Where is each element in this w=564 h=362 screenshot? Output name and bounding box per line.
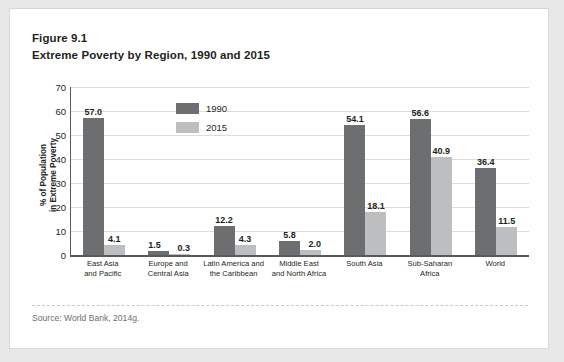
x-axis-label: Middle East and North Africa [266,259,331,279]
bar-slot: 5.8 [279,241,300,255]
y-axis-tick: 70 [44,82,66,93]
bar-value-label: 2.0 [308,239,321,249]
bar-group: 54.118.1 [333,87,398,255]
bar-2015[interactable]: 4.3 [235,245,256,255]
bar-1990[interactable]: 36.4 [475,168,496,255]
bar-1990[interactable]: 12.2 [214,226,235,255]
bar-2015[interactable]: 4.1 [104,245,125,255]
bar-slot: 54.1 [344,125,365,255]
bar-slot: 2.0 [300,250,321,255]
bar-slot: 18.1 [365,212,386,255]
bar-slot: 12.2 [214,226,235,255]
legend-item[interactable]: 2015 [176,122,256,133]
bar-1990[interactable]: 56.6 [410,119,431,255]
bar-1990[interactable]: 5.8 [279,241,300,255]
bar-value-label: 0.3 [178,243,191,253]
bar-2015[interactable]: 40.9 [431,157,452,255]
bar-slot: 11.5 [496,227,517,255]
bars-layer: 57.04.11.50.312.24.35.82.054.118.156.640… [71,87,529,255]
y-axis-tick: 30 [44,178,66,189]
x-axis-label: Sub-Saharan Africa [397,259,462,279]
bar-value-label: 18.1 [367,201,385,211]
chart-legend: 19902015 [176,103,256,141]
bar-value-label: 5.8 [283,230,296,240]
bar-value-label: 11.5 [498,216,515,226]
bar-2015[interactable]: 11.5 [496,227,517,255]
x-axis-category-labels: East Asia and PacificEurope and Central … [70,259,528,279]
bar-1990[interactable]: 1.5 [148,251,169,255]
bar-group: 56.640.9 [398,87,463,255]
figure-number: Figure 9.1 [32,31,512,46]
bar-value-label: 4.1 [108,234,121,244]
figure-header: Figure 9.1 Extreme Poverty by Region, 19… [32,31,512,63]
source-note: Source: World Bank, 2014g. [32,313,139,323]
plot-area: 57.04.11.50.312.24.35.82.054.118.156.640… [70,87,529,257]
x-axis-label: Latin America and the Caribbean [201,259,266,279]
bar-value-label: 4.3 [239,234,252,244]
bar-value-label: 57.0 [84,107,102,117]
bar-slot: 57.0 [83,118,104,255]
legend-swatch [176,122,199,133]
y-axis-tick: 0 [44,250,66,261]
y-axis-tick: 40 [44,154,66,165]
legend-swatch [176,103,199,114]
bar-2015[interactable]: 2.0 [300,250,321,255]
x-axis-label: Europe and Central Asia [135,259,200,279]
bar-group: 5.82.0 [267,87,332,255]
source-divider [32,305,528,306]
y-axis-tick: 50 [44,130,66,141]
x-axis-label: World [463,259,528,279]
bar-value-label: 54.1 [346,114,364,124]
y-axis-tick: 10 [44,226,66,237]
bar-slot: 1.5 [148,251,169,255]
bar-value-label: 36.4 [477,157,495,167]
x-axis-label: South Asia [332,259,397,279]
bar-group: 36.411.5 [464,87,529,255]
bar-slot: 36.4 [475,168,496,255]
bar-1990[interactable]: 54.1 [344,125,365,255]
x-axis-label: East Asia and Pacific [70,259,135,279]
figure-card: Figure 9.1 Extreme Poverty by Region, 19… [9,8,549,349]
legend-label: 2015 [206,122,227,133]
y-axis-tick-labels: 706050403020100 [44,87,66,255]
bar-slot: 56.6 [410,119,431,255]
bar-value-label: 1.5 [148,240,161,250]
bar-2015[interactable]: 18.1 [365,212,386,255]
bar-slot: 40.9 [431,157,452,255]
bar-slot: 4.3 [235,245,256,255]
bar-1990[interactable]: 57.0 [83,118,104,255]
bar-value-label: 56.6 [412,108,430,118]
legend-label: 1990 [206,103,227,114]
bar-value-label: 40.9 [433,146,451,156]
y-axis-tick: 60 [44,106,66,117]
legend-item[interactable]: 1990 [176,103,256,114]
y-axis-tick: 20 [44,202,66,213]
figure-title: Extreme Poverty by Region, 1990 and 2015 [32,47,512,63]
plot-wrapper: 706050403020100 57.04.11.50.312.24.35.82… [70,87,528,287]
bar-2015[interactable]: 0.3 [169,254,190,255]
bar-value-label: 12.2 [215,215,233,225]
bar-slot: 0.3 [169,254,190,255]
bar-slot: 4.1 [104,245,125,255]
bar-group: 57.04.1 [71,87,136,255]
chart-region: % of Population in Extreme Poverty 70605… [32,87,528,287]
